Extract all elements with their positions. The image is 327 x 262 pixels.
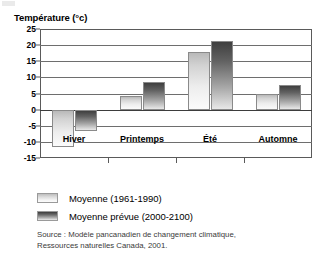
temperature-bar-chart-figure: Température (°c) 2520151050-5-10-15 Hive… <box>0 0 327 262</box>
bar-printemps-series-2 <box>143 82 165 110</box>
chart-legend: Moyenne (1961-1990)Moyenne prévue (2000-… <box>37 189 193 225</box>
y-axis-label-10: 10 <box>27 72 36 82</box>
category-label-été: Été <box>203 134 217 144</box>
y-axis-label--15: -15 <box>24 153 36 163</box>
scan-artifact <box>2 1 15 6</box>
bar-automne-series-1 <box>256 94 278 109</box>
y-axis-label-20: 20 <box>27 40 36 50</box>
bar-été-series-2 <box>211 41 233 110</box>
legend-swatch-dark <box>37 211 58 221</box>
y-axis-label-15: 15 <box>27 56 36 66</box>
source-line-1: Source : Modèle pancanadien de changemen… <box>37 230 236 241</box>
category-separator-tick-3 <box>244 158 245 163</box>
category-label-hiver: Hiver <box>63 134 86 144</box>
legend-item-2: Moyenne prévue (2000-2100) <box>37 207 193 225</box>
source-note: Source : Modèle pancanadien de changemen… <box>37 230 236 251</box>
chart-title: Température (°c) <box>14 12 87 23</box>
y-axis-label--5: -5 <box>28 121 36 131</box>
source-line-2: Ressources naturelles Canada, 2001. <box>37 241 236 252</box>
legend-swatch-light <box>37 193 58 203</box>
legend-label-1: Moyenne (1961-1990) <box>69 193 162 204</box>
legend-item-1: Moyenne (1961-1990) <box>37 189 193 207</box>
bar-automne-series-2 <box>279 85 301 110</box>
category-label-automne: Automne <box>259 134 298 144</box>
bar-été-series-1 <box>188 52 210 110</box>
bar-printemps-series-1 <box>120 96 142 110</box>
category-separator-tick-2 <box>176 158 177 163</box>
y-axis-label-25: 25 <box>27 24 36 34</box>
category-separator-tick-1 <box>108 158 109 163</box>
y-axis-label--10: -10 <box>24 137 36 147</box>
bar-hiver-series-2 <box>75 110 97 131</box>
category-label-printemps: Printemps <box>120 134 164 144</box>
legend-label-2: Moyenne prévue (2000-2100) <box>69 211 193 222</box>
